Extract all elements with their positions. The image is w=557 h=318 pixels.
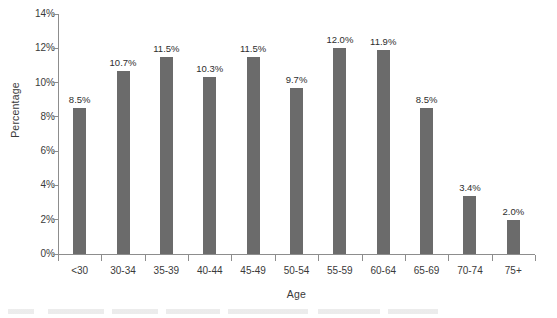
y-axis-tick: 14%: [0, 8, 66, 20]
x-axis-tick-mark: [362, 255, 363, 261]
bar-value-label: 11.5%: [229, 43, 277, 54]
x-axis-tick-label: 50-54: [275, 265, 318, 277]
y-axis-tick-mark: [53, 48, 59, 49]
bar: [507, 220, 520, 254]
bar-value-label: 10.3%: [186, 63, 234, 74]
bar-value-label: 8.5%: [56, 94, 104, 105]
bar-value-label: 2.0%: [489, 206, 537, 217]
x-axis-tick-label: 55-59: [318, 265, 361, 277]
bar: [377, 50, 390, 254]
y-axis-tick: 0%: [0, 248, 66, 260]
y-axis-tick-label: 10%: [35, 77, 55, 89]
x-axis-tick-mark: [58, 255, 59, 261]
bar-value-label: 10.7%: [99, 57, 147, 68]
x-axis-tick-label: 65-69: [405, 265, 448, 277]
x-axis-tick-mark: [405, 255, 406, 261]
x-axis-tick-mark: [448, 255, 449, 261]
bar: [117, 71, 130, 254]
x-axis-tick-label: 75+: [492, 265, 535, 277]
bar: [203, 77, 216, 254]
y-axis-tick-mark: [53, 14, 59, 15]
x-axis-tick-mark: [231, 255, 232, 261]
y-axis-tick-mark: [53, 151, 59, 152]
bar: [160, 57, 173, 254]
y-axis-tick-label: 12%: [35, 42, 55, 54]
x-axis-tick-label: 30-34: [101, 265, 144, 277]
bar: [463, 196, 476, 254]
bar-value-label: 9.7%: [273, 74, 321, 85]
x-axis-tick-label: 45-49: [231, 265, 274, 277]
bar: [290, 88, 303, 254]
x-axis-tick-label: 60-64: [362, 265, 405, 277]
y-axis-tick: 12%: [0, 42, 66, 54]
y-axis-tick: 2%: [0, 214, 66, 226]
y-axis-tick: 10%: [0, 77, 66, 89]
y-axis-tick-mark: [53, 219, 59, 220]
bar-value-label: 11.5%: [142, 43, 190, 54]
x-axis-line: [58, 254, 535, 255]
bar-value-label: 12.0%: [316, 34, 364, 45]
bar: [420, 108, 433, 254]
bar-value-label: 11.9%: [359, 36, 407, 47]
x-axis-tick-label: 40-44: [188, 265, 231, 277]
x-axis-tick-mark: [492, 255, 493, 261]
page-bleed-artifact: [8, 309, 438, 314]
x-axis-tick-mark: [101, 255, 102, 261]
y-axis-tick-mark: [53, 185, 59, 186]
bar-chart: Percentage 0%2%4%6%8%10%12%14% 8.5%10.7%…: [0, 0, 557, 318]
bar: [247, 57, 260, 254]
x-axis-tick-mark: [188, 255, 189, 261]
x-axis-tick-label: <30: [58, 265, 101, 277]
bar: [333, 48, 346, 254]
y-axis-tick-mark: [53, 116, 59, 117]
bar-value-label: 8.5%: [403, 94, 451, 105]
y-axis-tick: 6%: [0, 145, 66, 157]
x-axis-tick-label: 70-74: [448, 265, 491, 277]
x-axis-tick-mark: [535, 255, 536, 261]
x-axis-tick-mark: [145, 255, 146, 261]
y-axis-tick: 4%: [0, 179, 66, 191]
bar-value-label: 3.4%: [446, 182, 494, 193]
x-axis-title: Age: [58, 288, 535, 300]
bar: [73, 108, 86, 254]
x-axis-tick-mark: [275, 255, 276, 261]
x-axis-tick-label: 35-39: [145, 265, 188, 277]
y-axis-tick: 8%: [0, 111, 66, 123]
x-axis-tick-mark: [318, 255, 319, 261]
y-axis-tick-mark: [53, 82, 59, 83]
y-axis-tick-label: 14%: [35, 8, 55, 20]
